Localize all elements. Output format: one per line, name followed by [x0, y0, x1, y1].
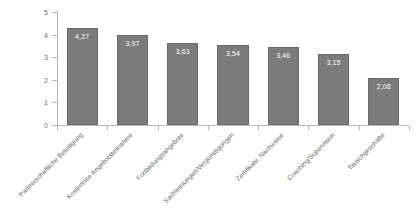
x-axis-tick	[409, 126, 410, 130]
bar: 3,63	[167, 43, 198, 125]
y-axis-tick	[52, 57, 58, 58]
y-axis-tick	[52, 35, 58, 36]
bar-value-label: 4,27	[68, 33, 97, 40]
bar-value-label: 3,97	[118, 40, 147, 47]
bar: 3,15	[318, 54, 349, 125]
y-axis-line	[57, 11, 58, 126]
y-axis-tick-label: 0	[0, 122, 48, 129]
x-axis-tick	[57, 126, 58, 130]
bar-value-label: 3,63	[168, 48, 197, 55]
y-axis-tick-label: 4	[0, 31, 48, 38]
x-axis-tick	[107, 126, 108, 130]
bar-value-label: 3,15	[319, 59, 348, 66]
y-axis-tick	[52, 102, 58, 103]
y-axis-tick-label: 2	[0, 76, 48, 83]
bar-value-label: 3,46	[269, 52, 298, 59]
bar: 3,97	[117, 35, 148, 125]
x-axis-line	[57, 125, 409, 126]
y-axis-tick	[52, 80, 58, 81]
bar-chart: 012345 4,273,973,633,543,463,152,08 Part…	[0, 0, 417, 220]
bar: 4,27	[67, 28, 98, 125]
bar: 3,54	[217, 45, 248, 125]
category-label: Coaching/Supervision	[119, 132, 336, 220]
x-axis-tick	[158, 126, 159, 130]
y-axis-tick-label: 3	[0, 54, 48, 61]
category-label: Sachleistungen/Vergünstigungen	[19, 132, 236, 220]
y-axis-tick-label: 5	[0, 9, 48, 16]
x-axis-tick	[208, 126, 209, 130]
category-label: Partnerschaftliche Beteiligung	[0, 132, 84, 220]
bar: 2,08	[368, 78, 399, 125]
x-axis-tick	[258, 126, 259, 130]
bar: 3,46	[268, 47, 299, 125]
y-axis-tick	[52, 12, 58, 13]
category-label: Tauschgeschäfte	[169, 132, 386, 220]
bar-value-label: 2,08	[369, 83, 398, 90]
bar-value-label: 3,54	[218, 50, 247, 57]
x-axis-tick	[359, 126, 360, 130]
x-axis-tick	[308, 126, 309, 130]
category-label: Zertifikate, Nachweise	[69, 132, 286, 220]
y-axis-tick-label: 1	[0, 99, 48, 106]
